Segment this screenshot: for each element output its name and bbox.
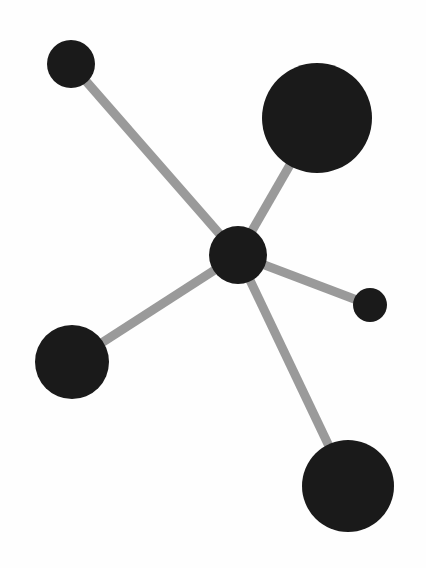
graph-canvas	[0, 0, 426, 568]
graph-svg	[0, 0, 426, 568]
bottom-right-node[interactable]	[302, 440, 394, 532]
bottom-left-node[interactable]	[35, 325, 109, 399]
right-small-node[interactable]	[353, 288, 387, 322]
top-left-node[interactable]	[47, 40, 95, 88]
center-hub-node[interactable]	[209, 226, 267, 284]
top-right-node[interactable]	[262, 63, 372, 173]
